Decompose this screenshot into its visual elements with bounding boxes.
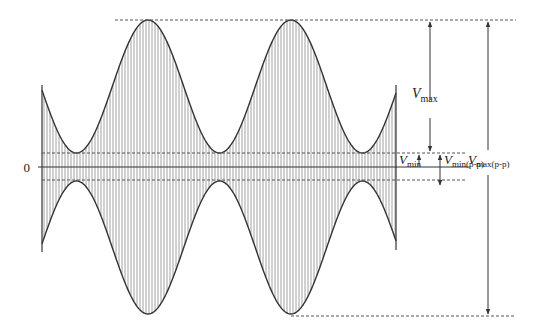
zero-label: 0: [24, 160, 31, 175]
vmin-label: Vmin: [399, 152, 421, 169]
vmax-label: Vmax: [412, 86, 438, 104]
lower-envelope: [42, 181, 396, 314]
am-waveform-diagram: 0 Vmax Vmin Vmin(p-p) Vmax(p-p): [0, 0, 541, 336]
vmax-pp-label: Vmax(p-p): [468, 152, 509, 169]
upper-envelope: [42, 20, 396, 153]
